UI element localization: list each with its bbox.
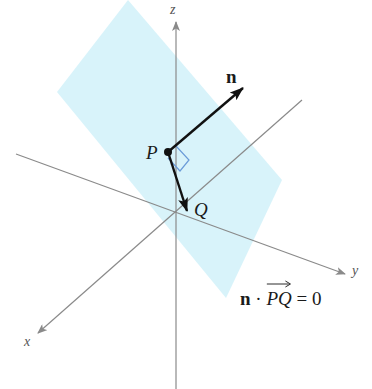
point-p-dot — [164, 148, 172, 156]
vector-arrow-icon — [266, 280, 291, 288]
equation-pq: PQ — [266, 289, 291, 308]
normal-vector-label: n — [226, 67, 237, 86]
equation-dot: · — [255, 288, 261, 309]
plane-normal-diagram: z y x P Q n n · PQ = 0 — [0, 0, 372, 389]
equation-pq-text: PQ — [266, 288, 291, 309]
point-q-label: Q — [194, 200, 208, 219]
equation-n: n — [240, 288, 251, 309]
x-axis-label: x — [24, 335, 30, 349]
orthogonality-equation: n · PQ = 0 — [240, 289, 321, 308]
point-p-label: P — [146, 143, 158, 162]
diagram-canvas — [0, 0, 372, 389]
equation-rhs: = 0 — [296, 288, 321, 309]
y-axis-label: y — [352, 264, 358, 278]
z-axis-label: z — [170, 3, 175, 17]
